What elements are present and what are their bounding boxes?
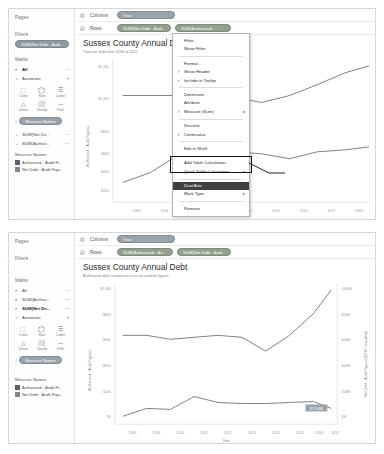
pill-authorized[interactable]: SUM(Authorized - Au.. <box>117 248 173 256</box>
detail-button[interactable]: △ Detail <box>15 339 32 352</box>
rows-label: Rows <box>90 26 112 31</box>
legend-title: Measure Names <box>15 152 69 157</box>
more-icon[interactable]: ⋯ <box>65 297 69 302</box>
marks-card-all[interactable]: ▾ All ⋯ <box>15 286 69 295</box>
menu-item-quick-table-calculation[interactable]: Quick Table Calculation ▸ <box>173 168 249 176</box>
legend-item[interactable]: Authorized - Audit Fi... <box>15 384 69 391</box>
legend-title: Measure Names <box>15 377 69 382</box>
x-tick: 2009 <box>161 209 169 213</box>
size-button[interactable]: ◯ Size <box>34 325 51 338</box>
menu-item-add-table-calculation[interactable]: Add Table Calculation... <box>173 159 249 167</box>
more-icon[interactable]: ⋯ <box>65 132 69 137</box>
path-button[interactable]: ─ Path <box>52 100 69 113</box>
detail-button[interactable]: △ Detail <box>15 100 32 113</box>
page-subtitle: Authorized debt compared to actual audit… <box>83 273 375 279</box>
more-icon[interactable]: ⋯ <box>65 141 69 146</box>
columns-shelf[interactable]: ▥ Columns Year <box>75 9 375 22</box>
mark-type-selector[interactable]: ∿ Automatic ▾ <box>15 313 69 322</box>
x-tick: 2008 <box>129 431 137 435</box>
measure-names-pill[interactable]: Measure Names <box>19 356 62 364</box>
legend-item[interactable]: Net Debt - Audit Figu... <box>15 166 69 173</box>
menu-item-filter[interactable]: Filter... <box>173 37 249 45</box>
menu-item-label: Discrete <box>184 123 200 128</box>
menu-item-label: Include in Tooltip <box>184 78 216 83</box>
pill-authorized[interactable]: SUM(Authorized - ... <box>175 24 231 32</box>
menu-item-mark-type[interactable]: Mark Type ▸ <box>173 190 249 198</box>
tooltip-icon: ⬜ <box>34 100 51 108</box>
page-title: Sussex County Annual Debt <box>83 262 375 273</box>
menu-item-show-header[interactable]: ✓ Show Header <box>173 68 249 76</box>
label-button[interactable]: ☰ Label <box>52 325 69 338</box>
menu-item-dual-axis[interactable]: Dual Axis <box>173 182 249 190</box>
columns-label: Columns <box>90 13 112 18</box>
mark-type-label: Automatic <box>22 76 64 81</box>
more-icon[interactable]: ⋯ <box>65 288 69 293</box>
color-caption: Color <box>15 333 32 338</box>
viz-area-bottom: Sussex County Annual Debt Authorized deb… <box>75 260 375 443</box>
columns-icon: ▥ <box>80 12 85 18</box>
filter-pill[interactable]: SUM(Net Debt - Audi.. <box>15 40 69 48</box>
menu-item-format[interactable]: Format... <box>173 60 249 68</box>
color-button[interactable]: ⬚ Color <box>15 86 32 99</box>
marks-card-all[interactable]: ▾ All ⋯ <box>15 65 69 74</box>
menu-item-remove[interactable]: Remove <box>173 205 249 213</box>
line-icon: ∿ <box>15 315 19 320</box>
label-button[interactable]: ☰ Label <box>52 86 69 99</box>
measure-pill-authorized[interactable]: ⌄ SUM(Authori... ⋯ <box>15 139 69 148</box>
more-icon[interactable]: ⋯ <box>65 306 69 311</box>
columns-icon: ▥ <box>80 236 85 242</box>
left-sidebar-top: Pages Filters SUM(Net Debt - Audi.. Mark… <box>9 9 75 219</box>
tooltip-button[interactable]: ⬜ Tooltip <box>34 100 51 113</box>
mark-type-selector[interactable]: ∿ Automatic ▾ <box>15 74 69 83</box>
menu-item-include-in-tooltip[interactable]: ✓ Include in Tooltip <box>173 77 249 85</box>
rows-shelf[interactable]: ▤ Rows SUM(Authorized - Au.. SUM(Net Deb… <box>75 246 375 259</box>
menu-item-show-filter[interactable]: Show Filter <box>173 45 249 53</box>
y-axis-title: Authorized - Audit Figures <box>88 350 92 391</box>
label-caption: Label <box>52 94 69 99</box>
color-button[interactable]: ⬚ Color <box>15 325 32 338</box>
measure-names-pill-row[interactable]: ⁞⁞ Measure Names <box>15 356 69 364</box>
path-button[interactable]: ─ Path <box>52 339 69 352</box>
menu-item-label: Attribute <box>184 100 200 105</box>
menu-separator <box>179 56 243 57</box>
series-authorized <box>123 290 332 351</box>
chevron-down-icon[interactable]: ▾ <box>67 76 69 81</box>
columns-shelf[interactable]: ▥ Columns Year <box>75 233 375 246</box>
measure-pill-net-debt[interactable]: ⌄ SUM(Net De... ⋯ <box>15 130 69 139</box>
more-icon[interactable]: ⋯ <box>65 67 69 72</box>
pill-net-debt[interactable]: SUM(Net Debt - Audi.. <box>117 24 171 32</box>
pill-year[interactable]: Year <box>117 235 175 243</box>
menu-item-discrete[interactable]: Discrete <box>173 122 249 130</box>
marks-card-authorized[interactable]: ▾ SUM(Authori... ⋯ <box>15 295 69 304</box>
chevron-down-icon[interactable]: ▾ <box>67 315 69 320</box>
measure-names-pill-row[interactable]: ⁞⁞ Measure Names <box>15 117 69 125</box>
y-axis-title: Authorized - Audit Figures <box>86 126 90 167</box>
marks-card-net-debt[interactable]: ▾ SUM(Net De... ⋯ <box>15 304 69 313</box>
marks-card-label: All <box>22 288 62 293</box>
menu-separator <box>179 156 243 157</box>
menu-item-attribute[interactable]: Attribute <box>173 99 249 107</box>
menu-item-continuous[interactable]: ✓ Continuous <box>173 131 249 139</box>
y-tick: $0 <box>107 415 111 419</box>
tooltip-button[interactable]: ⬜ Tooltip <box>34 339 51 352</box>
legend-item[interactable]: Net Debt - Audit Figu... <box>15 391 69 398</box>
menu-item-edit-in-shelf[interactable]: Edit in Shelf <box>173 145 249 153</box>
y2-tick: 1000M <box>341 287 352 291</box>
x-tick: 2016 <box>316 431 324 435</box>
field-context-menu[interactable]: Filter... Show Filter Format... ✓ Show H… <box>172 33 250 217</box>
pill-year[interactable]: Year <box>117 11 175 19</box>
menu-item-measure-sum[interactable]: ✓ Measure (Sum) ▸ <box>173 108 249 116</box>
chevron-down-icon: ▾ <box>15 306 19 311</box>
y-tick: $1,000 <box>100 287 111 291</box>
size-button[interactable]: ◯ Size <box>34 86 51 99</box>
tooltip-caption: Tooltip <box>34 347 51 352</box>
legend-item[interactable]: Authorized - Audit Fi... <box>15 159 69 166</box>
menu-item-dimension[interactable]: Dimension <box>173 91 249 99</box>
check-icon: ✓ <box>177 131 180 139</box>
label-icon: ☰ <box>52 325 69 333</box>
x-tick: 2008 <box>133 209 141 213</box>
rows-pills: SUM(Net Debt - Audi.. SUM(Authorized - .… <box>117 24 231 32</box>
pill-net-debt[interactable]: SUM(Net Debt - Audi.. <box>177 248 231 256</box>
measure-names-pill[interactable]: Measure Names <box>19 117 62 125</box>
series-net-debt <box>123 397 332 417</box>
